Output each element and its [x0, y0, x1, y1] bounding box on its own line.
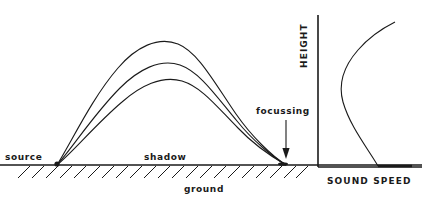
ground-hatching	[18, 166, 308, 178]
focussing-label: focussing	[256, 106, 310, 116]
focussing-arrow	[282, 120, 289, 159]
sound-speed-profile-curve	[341, 22, 395, 166]
shadow-label: shadow	[144, 152, 186, 162]
acoustic-ray-diagram: source shadow ground focussing HEIGHT SO…	[0, 0, 422, 205]
ground-label: ground	[184, 184, 224, 194]
focus-point-marker	[278, 162, 288, 166]
diagram-canvas	[0, 0, 422, 205]
height-axis-label: HEIGHT	[299, 23, 309, 68]
source-label: source	[5, 152, 42, 162]
sound-speed-axis-label: SOUND SPEED	[327, 176, 412, 186]
ray-path-upper	[57, 41, 286, 165]
source-point-marker	[54, 161, 59, 166]
ray-path-middle	[57, 63, 286, 165]
